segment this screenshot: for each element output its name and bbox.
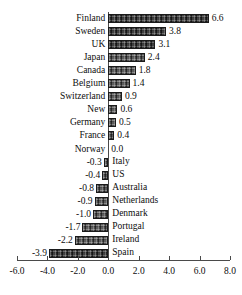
x-axis-tick bbox=[169, 256, 170, 260]
x-axis-tick bbox=[230, 256, 231, 260]
x-axis-tick-label: -4.0 bbox=[40, 266, 55, 277]
x-axis-line bbox=[17, 260, 230, 261]
x-axis-tick bbox=[47, 256, 48, 260]
x-axis-tick-label: 4.0 bbox=[163, 266, 175, 277]
x-axis-tick-label: 8.0 bbox=[224, 266, 236, 277]
x-axis-tick bbox=[139, 256, 140, 260]
x-axis-tick-label: -2.0 bbox=[70, 266, 85, 277]
x-axis-tick-label: 2.0 bbox=[133, 266, 145, 277]
x-axis-tick-label: 6.0 bbox=[194, 266, 206, 277]
x-axis-tick-label: 0.0 bbox=[102, 266, 114, 277]
x-axis-tick-label: -6.0 bbox=[9, 266, 24, 277]
bar-chart: Finland6.6Sweden3.8UK3.1Japan2.4Canada1.… bbox=[0, 0, 242, 295]
x-axis-tick bbox=[17, 256, 18, 260]
x-axis: -6.0-4.0-2.00.02.04.06.08.0 bbox=[0, 0, 242, 258]
x-axis-tick bbox=[108, 256, 109, 260]
x-axis-tick bbox=[78, 256, 79, 260]
x-axis-tick bbox=[200, 256, 201, 260]
